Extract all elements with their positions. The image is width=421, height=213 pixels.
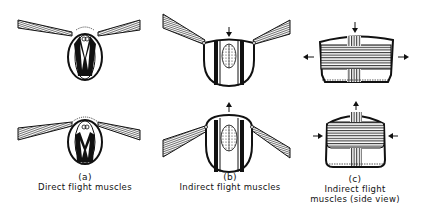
panel-c-letter: (c) — [305, 174, 405, 184]
panel-c-label: (c) Indirect flight muscles (side view) — [305, 174, 405, 204]
panel-b-letter: (b) — [165, 172, 295, 182]
dorsoventral-muscle-upper — [347, 36, 361, 46]
panel-a-caption: Direct flight muscles — [20, 182, 150, 192]
right-wing — [98, 20, 140, 36]
panel-b-upstroke — [163, 14, 290, 86]
right-wing — [98, 122, 140, 140]
right-wing — [251, 126, 290, 158]
panel-c-upstroke — [303, 22, 409, 82]
longitudinal-muscle — [321, 45, 391, 69]
panel-a-label: (a) Direct flight muscles — [20, 172, 150, 192]
left-wing — [163, 126, 207, 157]
dorsoventral-muscle-lower — [350, 148, 362, 166]
panel-c-caption-line2: muscles (side view) — [305, 194, 405, 204]
left-wing — [18, 20, 72, 36]
right-wing — [253, 20, 290, 44]
panel-b-caption: Indirect flight muscles — [165, 182, 295, 192]
dorsoventral-muscle-lower — [347, 69, 361, 82]
longitudinal-muscle — [327, 122, 384, 148]
panel-a-letter: (a) — [20, 172, 150, 182]
panel-b-label: (b) Indirect flight muscles — [165, 172, 295, 192]
left-wing — [163, 14, 205, 44]
left-wing — [18, 122, 72, 140]
dorsoventral-muscle-upper — [350, 112, 362, 122]
panel-c-caption-line1: Indirect flight — [305, 184, 405, 194]
panel-a-downstroke — [18, 117, 140, 164]
panel-b-downstroke — [163, 102, 290, 172]
panel-a-upstroke — [18, 20, 140, 80]
panel-c-downstroke — [313, 101, 398, 167]
